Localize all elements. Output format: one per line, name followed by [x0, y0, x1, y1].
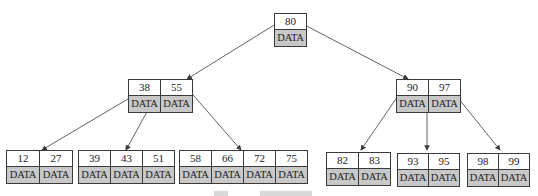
leaf-node: 39 DATA 43 DATA 51 DATA — [78, 150, 175, 184]
b-plus-tree-diagram: 80 DATA 38 DATA 55 DATA 90 DATA 97 DATA … — [0, 0, 538, 196]
data-pointer: DATA — [40, 167, 72, 183]
leaf-cell: 83 DATA — [359, 153, 390, 185]
leaf-cell: 99 DATA — [499, 154, 529, 186]
key-value: 82 — [327, 153, 358, 169]
key-value: 83 — [359, 153, 390, 169]
key-value: 75 — [276, 151, 307, 167]
key-value: 90 — [397, 80, 428, 96]
key-value: 43 — [111, 151, 142, 167]
key-value: 55 — [161, 80, 192, 96]
data-pointer: DATA — [429, 96, 460, 112]
data-pointer: DATA — [429, 170, 459, 186]
internal-cell: 55 DATA — [161, 80, 192, 112]
key-value: 98 — [468, 154, 498, 170]
key-value: 93 — [398, 154, 428, 170]
data-pointer: DATA — [499, 170, 529, 186]
key-value: 72 — [244, 151, 275, 167]
internal-node-left: 38 DATA 55 DATA — [128, 79, 193, 113]
internal-node-right: 90 DATA 97 DATA — [396, 79, 461, 113]
leaf-cell: 82 DATA — [327, 153, 359, 185]
leaf-cell: 58 DATA — [180, 151, 212, 183]
data-pointer: DATA — [275, 30, 306, 46]
key-value: 95 — [429, 154, 459, 170]
leaf-node: 93 DATA 95 DATA — [397, 153, 460, 187]
leaf-node: 98 DATA 99 DATA — [467, 153, 530, 187]
key-value: 39 — [79, 151, 110, 167]
leaf-cell: 95 DATA — [429, 154, 459, 186]
leaf-node: 82 DATA 83 DATA — [326, 152, 391, 186]
key-value: 27 — [40, 151, 72, 167]
data-pointer: DATA — [7, 167, 39, 183]
data-pointer: DATA — [398, 170, 428, 186]
leaf-cell: 75 DATA — [276, 151, 307, 183]
data-pointer: DATA — [359, 169, 390, 185]
data-pointer: DATA — [129, 96, 160, 112]
key-value: 12 — [7, 151, 39, 167]
key-value: 51 — [143, 151, 174, 167]
data-pointer: DATA — [111, 167, 142, 183]
data-pointer: DATA — [180, 167, 211, 183]
data-pointer: DATA — [397, 96, 428, 112]
leaf-cell: 39 DATA — [79, 151, 111, 183]
internal-cell: 97 DATA — [429, 80, 460, 112]
key-value: 80 — [275, 14, 306, 30]
leaf-cell: 66 DATA — [212, 151, 244, 183]
leaf-cell: 72 DATA — [244, 151, 276, 183]
data-pointer: DATA — [276, 167, 307, 183]
data-pointer: DATA — [143, 167, 174, 183]
internal-cell: 90 DATA — [397, 80, 429, 112]
data-pointer: DATA — [212, 167, 243, 183]
data-pointer: DATA — [79, 167, 110, 183]
leaf-cell: 27 DATA — [40, 151, 72, 183]
key-value: 38 — [129, 80, 160, 96]
leaf-cell: 51 DATA — [143, 151, 174, 183]
key-value: 99 — [499, 154, 529, 170]
key-value: 58 — [180, 151, 211, 167]
key-value: 97 — [429, 80, 460, 96]
figure-caption-clipped — [200, 189, 340, 196]
leaf-node: 58 DATA 66 DATA 72 DATA 75 DATA — [179, 150, 308, 184]
data-pointer: DATA — [161, 96, 192, 112]
data-pointer: DATA — [244, 167, 275, 183]
leaf-cell: 12 DATA — [7, 151, 40, 183]
root-cell: 80 DATA — [275, 14, 306, 46]
internal-cell: 38 DATA — [129, 80, 161, 112]
root-node: 80 DATA — [274, 13, 307, 47]
leaf-node: 12 DATA 27 DATA — [6, 150, 73, 184]
leaf-cell: 98 DATA — [468, 154, 499, 186]
data-pointer: DATA — [468, 170, 498, 186]
key-value: 66 — [212, 151, 243, 167]
leaf-cell: 93 DATA — [398, 154, 429, 186]
leaf-cell: 43 DATA — [111, 151, 143, 183]
data-pointer: DATA — [327, 169, 358, 185]
